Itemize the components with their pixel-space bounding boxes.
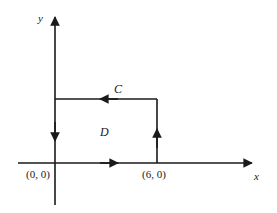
point-six-zero-label: (6, 0): [142, 169, 166, 180]
x-axis-label: x: [254, 171, 259, 182]
curve-c-label: C: [114, 83, 122, 95]
coordinate-diagram: [0, 0, 277, 213]
figure-container: y x C D (0, 0) (6, 0): [0, 0, 277, 213]
y-axis-label: y: [38, 13, 43, 24]
origin-point-label: (0, 0): [26, 169, 50, 180]
region-d-label: D: [100, 126, 109, 138]
